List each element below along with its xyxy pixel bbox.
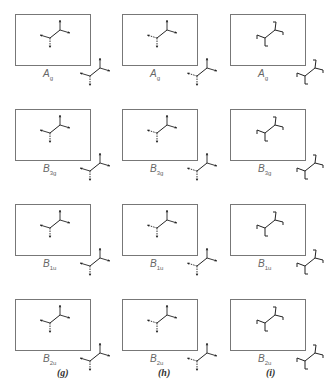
molecule-vibration-diagram	[122, 14, 232, 94]
symmetry-label: B2u	[43, 353, 56, 366]
molecule-vibration-diagram	[122, 109, 232, 189]
molecule-vibration-diagram	[230, 109, 332, 189]
symmetry-label: Ag	[43, 68, 53, 81]
molecule-vibration-diagram	[15, 204, 125, 284]
symmetry-label: B1u	[43, 258, 56, 271]
symmetry-label: B2u	[150, 353, 163, 366]
column-label-g: (g)	[57, 367, 69, 378]
symmetry-label: B3g	[43, 163, 56, 176]
symmetry-label: B1u	[150, 258, 163, 271]
symmetry-label: B3g	[258, 163, 271, 176]
column-label-h: (h)	[158, 367, 170, 378]
symmetry-label: B2u	[258, 353, 271, 366]
symmetry-label: Ag	[150, 68, 160, 81]
molecule-vibration-diagram	[122, 299, 232, 379]
column-label-i: (i)	[266, 367, 275, 378]
molecule-vibration-diagram	[15, 299, 125, 379]
symmetry-label: Ag	[258, 68, 268, 81]
molecule-vibration-diagram	[122, 204, 232, 284]
molecule-vibration-diagram	[230, 299, 332, 379]
molecule-vibration-diagram	[230, 14, 332, 94]
symmetry-label: B1u	[258, 258, 271, 271]
molecule-vibration-diagram	[15, 109, 125, 189]
molecule-vibration-diagram	[230, 204, 332, 284]
molecule-vibration-diagram	[15, 14, 125, 94]
symmetry-label: B3g	[150, 163, 163, 176]
